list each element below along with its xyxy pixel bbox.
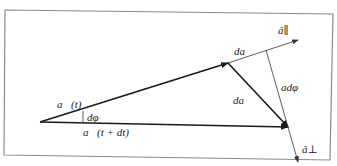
label-a-parallel: â∥ xyxy=(278,25,289,36)
label-a-dphi: adφ xyxy=(281,82,298,93)
vector-diagram: a⃗(t) a⃗(t + dt) dφ da da⃗ adφ â∥ â⊥ xyxy=(0,0,337,166)
label-da: da xyxy=(234,46,245,57)
label-dphi: dφ xyxy=(87,112,99,123)
vector-a-t xyxy=(40,63,228,122)
label-a-t: a⃗(t) xyxy=(57,99,81,110)
label-da-vector: da⃗ xyxy=(233,95,253,106)
label-a-t-plus-dt: a⃗(t + dt) xyxy=(83,127,129,138)
vector-a-t-plus-dt xyxy=(40,122,288,127)
unit-vector-perpendicular xyxy=(266,50,298,162)
label-a-perpendicular: â⊥ xyxy=(302,144,318,155)
